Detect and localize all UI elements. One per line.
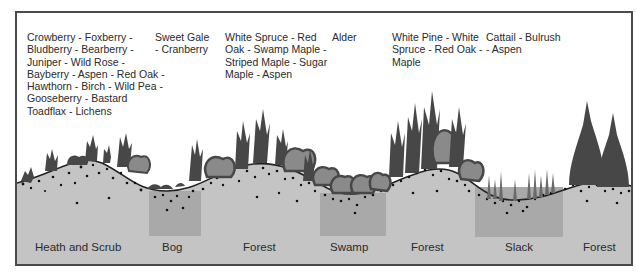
forest-3-trees xyxy=(569,101,629,187)
dune-succession-diagram: Crowberry - Foxberry - Bludberry - Bearb… xyxy=(15,11,633,266)
zone-label-forest-2: Forest xyxy=(411,241,444,253)
forest-2-trees xyxy=(389,91,483,181)
bog-plants xyxy=(147,183,185,189)
swamp-alders xyxy=(331,173,391,193)
landscape-cross-section xyxy=(17,13,633,266)
zone-label-forest-3: Forest xyxy=(583,241,616,253)
bog-basin xyxy=(149,191,201,236)
zone-label-heath-and-scrub: Heath and Scrub xyxy=(35,241,121,253)
zone-label-forest-1: Forest xyxy=(243,241,276,253)
swamp-basin xyxy=(320,193,386,236)
zone-label-slack: Slack xyxy=(505,241,533,253)
zone-label-bog: Bog xyxy=(162,241,182,253)
zone-label-swamp: Swamp xyxy=(330,241,368,253)
